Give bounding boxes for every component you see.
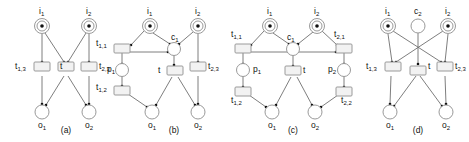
transition-b-t11[interactable] bbox=[114, 44, 130, 53]
label-b-p1: p1 bbox=[107, 64, 116, 75]
panel-d: i1 c2 i2 o1 o2 t1,3 t bbox=[366, 6, 466, 135]
label-b-t12: t1,2 bbox=[96, 82, 107, 93]
place-d-o1[interactable] bbox=[383, 105, 397, 119]
arc-d-i2-t23 bbox=[445, 34, 448, 62]
label-o1: o1 bbox=[38, 120, 47, 131]
place-b-i1[interactable] bbox=[143, 19, 158, 34]
token-b-i1 bbox=[148, 24, 152, 28]
caption-c: (c) bbox=[288, 125, 298, 135]
arc-b-i2-c1 bbox=[179, 32, 193, 44]
label-c-p1: p1 bbox=[253, 64, 262, 75]
transition-b-t12[interactable] bbox=[114, 86, 130, 95]
transition-t13[interactable] bbox=[34, 62, 50, 71]
label-b-t11: t1,1 bbox=[96, 38, 107, 49]
panel-a: i1 i2 o1 o2 t1,3 t t2,3 (a) bbox=[15, 6, 110, 135]
panel-c: i1 i2 c1 p1 p2 o1 o2 bbox=[231, 6, 352, 135]
label-b-i2: i2 bbox=[195, 6, 201, 17]
transition-c-t12[interactable] bbox=[235, 87, 251, 96]
place-o2[interactable] bbox=[82, 105, 96, 119]
label-b-c1: c1 bbox=[171, 32, 179, 43]
transition-d-t23[interactable] bbox=[437, 62, 453, 71]
place-c-o2[interactable] bbox=[308, 105, 322, 119]
arc-d-t-o2 bbox=[420, 76, 442, 106]
label-b-o2: o2 bbox=[194, 120, 203, 131]
arc-c-i1-t11 bbox=[251, 31, 264, 45]
label-c-i1: i1 bbox=[267, 6, 273, 17]
arc-b-t12-o1 bbox=[128, 94, 147, 107]
arc-b-i1-c1 bbox=[153, 33, 170, 44]
arc-c-t-o2 bbox=[297, 77, 312, 105]
place-i2[interactable] bbox=[82, 19, 97, 34]
panel-b: i1 i2 c1 p1 o1 o2 t1,1 bbox=[96, 6, 219, 135]
place-b-c1[interactable] bbox=[168, 43, 181, 56]
place-c-i2[interactable] bbox=[310, 19, 325, 34]
place-c-p1[interactable] bbox=[237, 64, 250, 77]
label-b-t: t bbox=[158, 65, 161, 75]
transition-b-t23[interactable] bbox=[190, 62, 206, 71]
figure-canvas: i1 i2 o1 o2 t1,3 t t2,3 (a) bbox=[0, 0, 469, 142]
label-d-t23: t2,3 bbox=[455, 61, 466, 72]
label-b-i1: i1 bbox=[147, 6, 153, 17]
label-d-o1: o1 bbox=[386, 120, 395, 131]
label-c-o1: o1 bbox=[268, 120, 277, 131]
label-d-c2: c2 bbox=[414, 6, 422, 17]
transition-d-t13[interactable] bbox=[385, 62, 401, 71]
label-c-t22: t2,2 bbox=[341, 95, 352, 106]
caption-d: (d) bbox=[413, 125, 424, 135]
label-i1: i1 bbox=[39, 6, 45, 17]
place-b-o2[interactable] bbox=[191, 105, 205, 119]
caption-b: (b) bbox=[169, 125, 180, 135]
label-c-t21: t2,1 bbox=[334, 29, 345, 40]
label-c-t11: t1,1 bbox=[231, 29, 242, 40]
place-d-i1[interactable] bbox=[381, 19, 396, 34]
arc-t-o2 bbox=[68, 76, 86, 105]
label-c-t12: t1,2 bbox=[231, 95, 242, 106]
label-d-t13: t1,3 bbox=[366, 61, 377, 72]
arc-d-t-o1 bbox=[394, 76, 416, 106]
transition-c-t22[interactable] bbox=[336, 87, 352, 96]
caption-a: (a) bbox=[61, 125, 72, 135]
label-c-c1: c1 bbox=[287, 32, 295, 43]
place-d-c2[interactable] bbox=[411, 19, 425, 33]
place-c-c1[interactable] bbox=[287, 43, 300, 56]
transition-c-t21[interactable] bbox=[336, 44, 352, 53]
transition-c-t11[interactable] bbox=[235, 44, 251, 53]
place-c-i1[interactable] bbox=[263, 19, 278, 34]
token-c-i1 bbox=[268, 24, 272, 28]
arc-i2-t bbox=[68, 33, 86, 62]
arc-c-t-o1 bbox=[276, 77, 291, 105]
petri-net-figure: i1 i2 o1 o2 t1,3 t t2,3 (a) bbox=[0, 0, 469, 142]
label-d-i2: i2 bbox=[445, 6, 451, 17]
transition-c-t[interactable] bbox=[285, 66, 301, 75]
token-i1 bbox=[40, 24, 44, 28]
token-i2 bbox=[87, 24, 91, 28]
arc-d-i1-t13 bbox=[388, 34, 392, 62]
arc-b-t-o1 bbox=[156, 77, 172, 105]
transition-t23[interactable] bbox=[81, 62, 97, 71]
arc-d-t13-o1 bbox=[390, 76, 391, 104]
place-i1[interactable] bbox=[35, 19, 50, 34]
arc-b-t-o2 bbox=[178, 77, 195, 105]
label-b-o1: o1 bbox=[148, 120, 157, 131]
place-d-o2[interactable] bbox=[439, 105, 453, 119]
label-d-o2: o2 bbox=[442, 120, 451, 131]
place-o1[interactable] bbox=[35, 105, 49, 119]
place-c-o1[interactable] bbox=[265, 105, 279, 119]
transition-b-t[interactable] bbox=[167, 66, 183, 75]
label-d-t: t bbox=[428, 61, 431, 71]
place-b-i2[interactable] bbox=[191, 19, 206, 34]
place-d-i2[interactable] bbox=[441, 19, 456, 34]
place-b-p1[interactable] bbox=[116, 64, 129, 77]
place-c-p2[interactable] bbox=[338, 64, 351, 77]
arc-head-d-c2-t bbox=[417, 63, 420, 66]
arc-i1-t bbox=[45, 33, 64, 62]
label-c-o2: o2 bbox=[311, 120, 320, 131]
arc-c-i2-c1 bbox=[298, 32, 313, 44]
token-d-i1 bbox=[386, 24, 390, 28]
arc-d-t23-o2 bbox=[445, 76, 446, 104]
place-b-o1[interactable] bbox=[145, 105, 159, 119]
token-b-i2 bbox=[196, 24, 200, 28]
label-t13: t1,3 bbox=[15, 61, 26, 72]
arc-b-i1-t11 bbox=[131, 31, 144, 45]
transition-d-t[interactable] bbox=[410, 66, 426, 75]
